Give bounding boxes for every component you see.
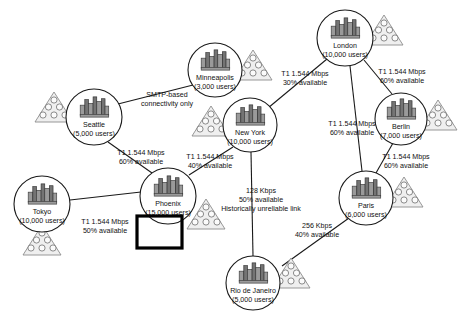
site-node-rio[interactable]: Rio de Janeiro(5,000 users) xyxy=(226,256,280,310)
city-buildings-icon xyxy=(28,184,57,204)
site-node-berlin[interactable]: Berlin(7,000 users) xyxy=(375,93,427,145)
link-label-paris-rio: 256 Kbps40% available xyxy=(295,221,339,238)
site-name-london: London xyxy=(333,42,357,50)
site-users-minneapolis: (3,000 users) xyxy=(194,83,236,91)
site-users-newyork: (10,000 users) xyxy=(227,138,273,146)
link-label-berlin-paris: T1 1.544 Mbps60% available xyxy=(382,152,430,169)
link-line-tokyo-phoenix[interactable] xyxy=(70,192,141,200)
site-node-seattle[interactable]: Seattle(5,000 users) xyxy=(66,89,122,145)
site-node-london[interactable]: London(10,000 users) xyxy=(317,10,373,66)
site-name-berlin: Berlin xyxy=(392,123,410,131)
link-label-london-berlin: T1 1.544 Mbps60% available xyxy=(378,67,426,84)
link-label-newyork-rio: 128 Kbps50% availableHistorically unreli… xyxy=(221,187,301,213)
site-name-seattle: Seattle xyxy=(83,121,105,129)
site-node-newyork[interactable]: New York(10,000 users) xyxy=(223,98,277,152)
site-users-berlin: (7,000 users) xyxy=(380,132,422,140)
site-users-paris: (6,000 users) xyxy=(345,211,387,219)
site-users-tokyo: (10,000 users) xyxy=(19,217,65,225)
site-name-rio: Rio de Janeiro xyxy=(230,287,276,295)
network-topology-diagram: Seattle(5,000 users)Minneapolis(3,000 us… xyxy=(0,0,464,312)
site-name-phoenix: Phoenix xyxy=(155,200,181,208)
link-label-london-paris: T1 1.544 Mbps60% available xyxy=(328,119,376,136)
diagram-canvas: Seattle(5,000 users)Minneapolis(3,000 us… xyxy=(0,0,464,312)
link-label-newyork-phoenix: T1 1.544 Mbps40% available xyxy=(186,152,234,169)
site-users-london: (10,000 users) xyxy=(322,51,368,59)
link-label-seattle-phoenix: T1 1.544 Mbps60% available xyxy=(117,148,165,165)
site-name-minneapolis: Minneapolis xyxy=(196,74,234,82)
link-label-newyork-london: T1 1.544 Mbps30% available xyxy=(281,69,329,86)
site-name-newyork: New York xyxy=(235,129,265,137)
site-name-tokyo: Tokyo xyxy=(33,208,52,216)
site-node-paris[interactable]: Paris(6,000 users) xyxy=(339,171,393,225)
site-name-paris: Paris xyxy=(358,202,375,210)
site-users-rio: (5,000 users) xyxy=(232,296,274,304)
link-label-tokyo-phoenix: T1 1.544 Mbps50% available xyxy=(81,217,129,234)
link-label-seattle-minneapolis: SMTP-basedconnectivity only xyxy=(141,90,193,107)
site-users-seattle: (5,000 users) xyxy=(73,130,115,138)
site-node-tokyo[interactable]: Tokyo(10,000 users) xyxy=(14,176,70,232)
site-node-minneapolis[interactable]: Minneapolis(3,000 users) xyxy=(188,43,242,97)
